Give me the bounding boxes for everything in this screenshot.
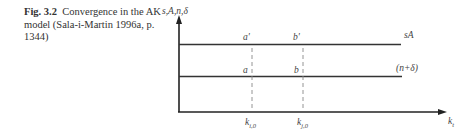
point-a-prime: a' xyxy=(243,32,251,42)
point-b: b xyxy=(294,65,299,75)
y-axis-label: s,A,n,δ xyxy=(162,6,188,16)
tick-kj0: kj,0 xyxy=(297,117,309,129)
point-a: a xyxy=(243,65,248,75)
tick-ki0: ki,0 xyxy=(245,117,257,129)
x-axis-arrow-icon xyxy=(438,109,447,115)
sa-label: sA xyxy=(404,30,414,40)
convergence-chart: s,A,n,δ sA (n+δ) a' b' a b ki,0 kj,0 kt xyxy=(0,0,476,139)
n-delta-label: (n+δ) xyxy=(396,63,418,74)
point-b-prime: b' xyxy=(293,32,301,42)
x-axis-label: kt xyxy=(448,116,454,128)
y-axis-arrow-icon xyxy=(176,15,182,24)
